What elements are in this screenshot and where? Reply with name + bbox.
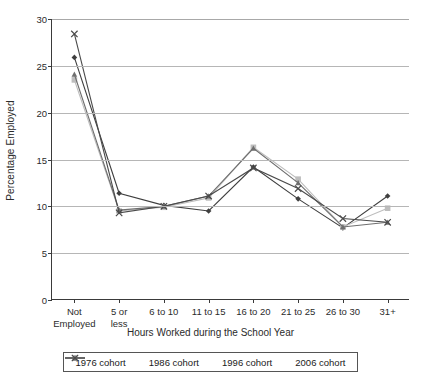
gridline [52, 113, 409, 114]
x-axis-tick-mark [119, 299, 120, 303]
data-point [295, 185, 301, 191]
gridline [52, 19, 409, 20]
x-axis-tick-label: 6 to 10 [149, 306, 178, 318]
series-line [74, 74, 387, 227]
y-axis-title-text: Percentage Employed [5, 100, 16, 200]
x-axis-tick-mark [209, 299, 210, 303]
x-axis-tick-label: 26 to 30 [326, 306, 360, 318]
legend-item: 2006 cohort [295, 357, 345, 368]
data-point [72, 71, 78, 76]
legend-label: 2006 cohort [295, 357, 345, 368]
y-axis-tick-mark [48, 160, 52, 161]
data-point [116, 190, 122, 196]
x-axis-tick-mark [164, 299, 165, 303]
legend-label: 1996 cohort [222, 357, 272, 368]
x-axis-title-text: Hours Worked during the School Year [127, 327, 294, 338]
x-axis-tick-label: 11 to 15 [192, 306, 226, 318]
y-axis-tick-mark [48, 253, 52, 254]
x-axis-tick-mark [253, 299, 254, 303]
x-axis-tick-label: Not Employed [53, 306, 95, 329]
y-axis-tick-mark [48, 300, 52, 301]
y-axis-tick-mark [48, 113, 52, 114]
series-line [74, 80, 387, 227]
plot-area: 051015202530Not Employed5 or less6 to 10… [51, 19, 409, 300]
series-1976-cohort [72, 55, 391, 231]
y-axis-tick-label: 5 [42, 248, 47, 259]
x-axis-tick-mark [298, 299, 299, 303]
legend-label: 1986 cohort [149, 357, 199, 368]
x-axis-tick-label: 21 to 25 [281, 306, 315, 318]
x-axis-tick-label: 31+ [380, 306, 396, 318]
y-axis-title: Percentage Employed [2, 0, 18, 300]
y-axis-tick-label: 30 [36, 14, 47, 25]
line-chart: Percentage Employed 051015202530Not Empl… [0, 0, 421, 384]
legend-item: 1996 cohort [222, 357, 272, 368]
x-axis-tick-label: 5 or less [111, 306, 128, 329]
data-point [72, 55, 78, 61]
x-axis-tick-mark [343, 299, 344, 303]
gridline [52, 206, 409, 207]
gridline [52, 66, 409, 67]
legend-item: 1986 cohort [149, 357, 199, 368]
gridline [52, 253, 409, 254]
y-axis-tick-label: 25 [36, 60, 47, 71]
y-axis-tick-mark [48, 206, 52, 207]
y-axis-tick-label: 0 [42, 295, 47, 306]
y-axis-tick-label: 15 [36, 154, 47, 165]
y-axis-tick-label: 10 [36, 201, 47, 212]
x-axis-tick-label: 16 to 20 [236, 306, 270, 318]
x-axis-tick-mark [74, 299, 75, 303]
legend: 1976 cohort1986 cohort1996 cohort2006 co… [63, 352, 358, 372]
y-axis-tick-label: 20 [36, 107, 47, 118]
series-line [74, 57, 387, 227]
y-axis-tick-mark [48, 19, 52, 20]
legend-marker-x-icon [64, 353, 86, 363]
x-axis-title: Hours Worked during the School Year [0, 327, 421, 338]
x-axis-tick-mark [388, 299, 389, 303]
y-axis-tick-mark [48, 66, 52, 67]
gridline [52, 160, 409, 161]
series-2006-cohort [71, 31, 391, 226]
